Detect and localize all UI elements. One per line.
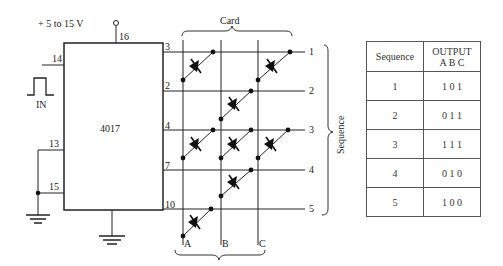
pin-3-label: 3: [165, 41, 170, 52]
pin-4-label: 4: [165, 120, 170, 131]
row-label-2: 2: [309, 85, 314, 96]
cell-output: 1 0 1: [424, 72, 481, 101]
card-brace: [182, 26, 292, 36]
pin-15-label: 15: [49, 181, 59, 192]
sequence-label: Sequence: [335, 115, 346, 154]
row-label-5: 5: [309, 203, 314, 214]
row-label-3: 3: [309, 124, 314, 135]
column-label-a: A: [184, 238, 192, 249]
diode-icon: [188, 59, 277, 229]
table-row: 20 1 1: [367, 101, 481, 130]
column-label-b: B: [222, 238, 229, 249]
cell-sequence: 3: [367, 130, 424, 159]
column-label-c: C: [259, 238, 266, 249]
cell-output: 1 0 0: [424, 188, 481, 217]
ic-label: 4017: [100, 123, 120, 134]
cell-sequence: 2: [367, 101, 424, 130]
input-label: IN: [36, 99, 47, 110]
pin-2-label: 2: [165, 80, 170, 91]
cell-output: 0 1 1: [424, 101, 481, 130]
table-header-row: Sequence OUTPUTA B C: [367, 42, 481, 72]
cell-sequence: 4: [367, 159, 424, 188]
pin-7-label: 7: [165, 160, 170, 171]
table-row: 51 0 0: [367, 188, 481, 217]
header-output-label: OUTPUT: [432, 46, 471, 57]
row-label-1: 1: [309, 46, 314, 57]
card-bottom-brace: [175, 250, 265, 260]
table-row: 31 1 1: [367, 130, 481, 159]
card-label: Card: [220, 15, 239, 26]
table-row: 11 0 1: [367, 72, 481, 101]
header-sequence: Sequence: [367, 42, 424, 72]
sequence-brace: [322, 45, 333, 215]
supply-label: + 5 to 15 V: [38, 18, 84, 29]
ground-icon: [99, 236, 125, 244]
header-output: OUTPUTA B C: [424, 42, 481, 72]
table-row: 40 1 0: [367, 159, 481, 188]
cell-sequence: 5: [367, 188, 424, 217]
pin-10-label: 10: [165, 199, 175, 210]
pin-16-label: 16: [119, 31, 129, 42]
header-output-columns: A B C: [439, 57, 464, 68]
cell-output: 1 1 1: [424, 130, 481, 159]
clock-pulse-icon: [27, 78, 54, 95]
supply-terminal: [114, 21, 119, 26]
pin-13-label: 13: [49, 138, 59, 149]
cell-output: 0 1 0: [424, 159, 481, 188]
sequence-output-table: Sequence OUTPUTA B C 11 0 1 20 1 1 31 1 …: [366, 41, 481, 217]
pin-14-label: 14: [52, 53, 62, 64]
diode-matrix: [183, 52, 290, 236]
cell-sequence: 1: [367, 72, 424, 101]
ground-icon: [26, 215, 50, 223]
row-label-4: 4: [309, 164, 314, 175]
